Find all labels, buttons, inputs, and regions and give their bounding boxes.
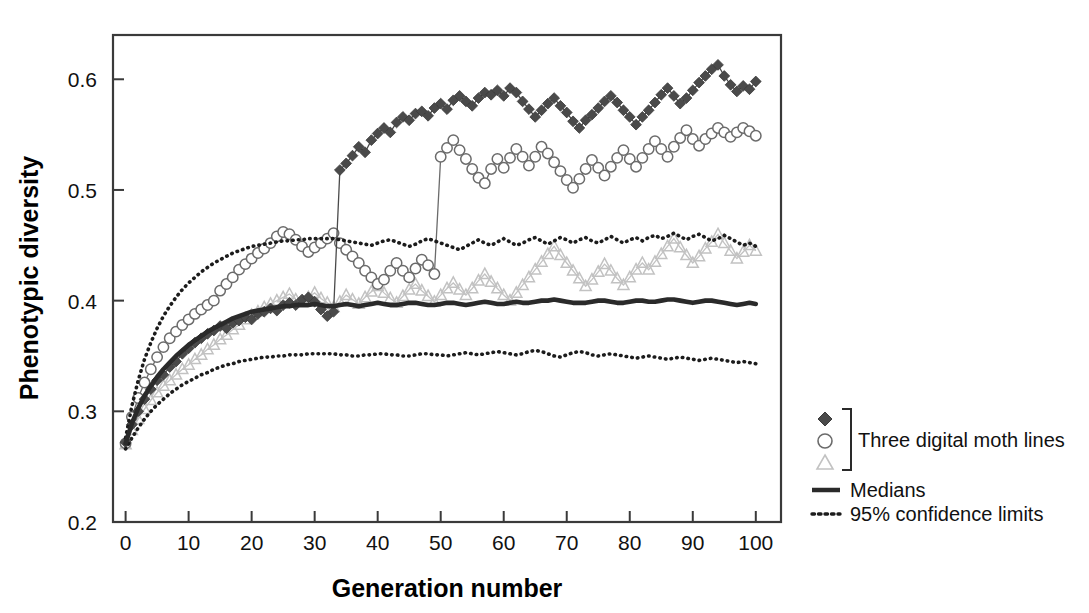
data-point	[486, 164, 496, 174]
x-tick-label: 90	[681, 531, 704, 554]
legend-group-label: Three digital moth lines	[858, 429, 1065, 451]
legend-confidence-label: 95% confidence limits	[850, 503, 1043, 525]
data-point	[499, 163, 509, 173]
x-tick-label: 10	[177, 531, 200, 554]
data-point	[574, 174, 584, 184]
data-point	[209, 295, 219, 305]
figure-container: 0102030405060708090100 0.20.30.40.50.6 G…	[0, 0, 1089, 613]
data-point	[530, 152, 540, 162]
x-tick-label: 0	[120, 531, 132, 554]
data-point	[662, 152, 672, 162]
y-axis-title: Phenotypic diversity	[15, 156, 43, 401]
x-tick-label: 40	[366, 531, 389, 554]
y-tick-label: 0.3	[68, 400, 97, 423]
data-point	[448, 135, 458, 145]
data-point	[461, 154, 471, 164]
data-point	[146, 364, 156, 374]
data-point	[751, 131, 761, 141]
y-tick-label: 0.5	[68, 179, 97, 202]
x-tick-label: 30	[303, 531, 326, 554]
legend-medians-label: Medians	[850, 479, 926, 501]
x-tick-label: 80	[618, 531, 641, 554]
data-point	[480, 178, 490, 188]
x-tick-label: 70	[555, 531, 578, 554]
y-tick-label: 0.2	[68, 511, 97, 534]
data-point	[429, 269, 439, 279]
phenotypic-diversity-chart: 0102030405060708090100 0.20.30.40.50.6 G…	[0, 0, 1089, 613]
x-tick-label: 100	[738, 531, 773, 554]
y-tick-label: 0.4	[68, 290, 98, 313]
y-tick-label: 0.6	[68, 68, 97, 91]
x-tick-label: 60	[492, 531, 515, 554]
x-tick-label: 20	[240, 531, 263, 554]
data-point	[152, 352, 162, 362]
x-axis-title: Generation number	[332, 574, 563, 602]
x-tick-label: 50	[429, 531, 452, 554]
